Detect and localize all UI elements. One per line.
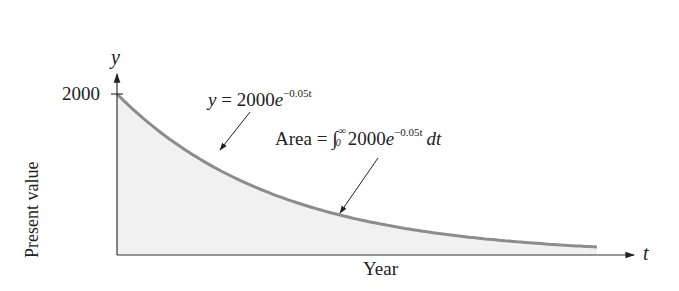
area-equation-label: Area = ∫∞02000e−0.05tdt — [275, 127, 441, 150]
area-under-curve — [117, 94, 597, 255]
y-axis-symbol: y — [111, 46, 120, 69]
area-eq-e: e — [386, 128, 394, 149]
x-axis-label: Year — [363, 258, 398, 280]
y-axis-label-text: Present value — [22, 162, 42, 258]
area-eq-word: Area — [275, 128, 312, 149]
area-eq-dt: dt — [427, 128, 442, 149]
area-eq-exponent: −0.05t — [394, 126, 423, 138]
integral-limits: ∞0 — [338, 135, 348, 145]
area-eq-equals: = — [312, 128, 332, 149]
curve-equation-label: y = 2000e−0.05t — [208, 89, 312, 111]
area-label-arrow — [340, 158, 378, 213]
curve-eq-coef: = 2000 — [216, 89, 274, 110]
curve-eq-e: e — [275, 89, 283, 110]
area-eq-coef: 2000 — [348, 128, 386, 149]
curve-eq-exponent: −0.05t — [283, 87, 312, 99]
integral-upper-limit: ∞ — [339, 125, 346, 136]
y-tick-label-2000: 2000 — [62, 83, 100, 105]
x-axis-symbol: t — [643, 242, 649, 265]
curve-label-arrow — [220, 112, 250, 150]
integral-lower-limit: 0 — [336, 137, 341, 148]
y-axis-label: Present value — [22, 162, 43, 258]
